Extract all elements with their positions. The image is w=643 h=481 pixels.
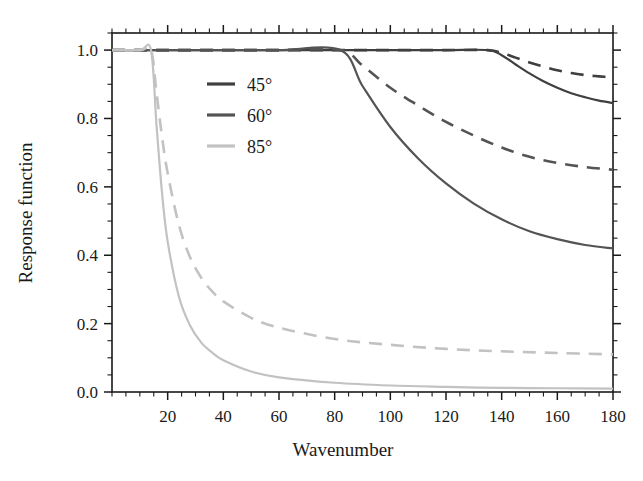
x-tick-label: 160 — [545, 407, 571, 426]
y-tick-label: 1.0 — [77, 41, 98, 60]
x-tick-label: 80 — [326, 407, 343, 426]
y-tick-label: 0.4 — [77, 246, 99, 265]
x-tick-label: 180 — [600, 407, 626, 426]
x-axis-title: Wavenumber — [293, 439, 394, 460]
y-tick-label: 0.8 — [77, 109, 98, 128]
x-tick-label: 100 — [378, 407, 404, 426]
y-tick-label: 0.6 — [77, 178, 98, 197]
legend-label-2: 60° — [247, 106, 272, 126]
x-tick-label: 40 — [215, 407, 232, 426]
chart-figure: 20406080100120140160180 0.00.20.40.60.81… — [0, 0, 643, 481]
x-tick-label: 60 — [271, 407, 288, 426]
y-tick-label: 0.2 — [77, 315, 98, 334]
x-tick-label: 120 — [433, 407, 459, 426]
y-axis-title: Response function — [15, 142, 36, 283]
legend-label-3: 85° — [247, 137, 272, 157]
response-function-line-chart: 20406080100120140160180 0.00.20.40.60.81… — [0, 0, 643, 481]
x-axis-tick-labels: 20406080100120140160180 — [159, 407, 626, 426]
x-tick-label: 20 — [159, 407, 176, 426]
legend-label-1: 45° — [247, 75, 272, 95]
y-tick-label: 0.0 — [77, 383, 98, 402]
x-tick-label: 140 — [489, 407, 515, 426]
